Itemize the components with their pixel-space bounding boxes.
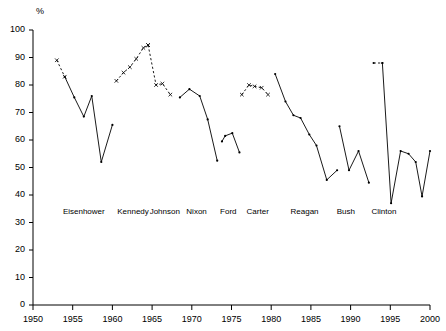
data-point-marker [238, 151, 240, 153]
axis-unit-label-group: % [36, 6, 44, 16]
data-point-marker [315, 144, 317, 146]
president-label: Reagan [291, 207, 319, 216]
chart-container: % 0102030405060708090100 195019551960196… [0, 0, 446, 331]
data-point-marker [207, 118, 209, 120]
x-axis-tick-label: 1995 [380, 314, 400, 324]
x-axis-tick-label: 2000 [420, 314, 440, 324]
data-point-marker [348, 169, 350, 171]
president-label: Clinton [371, 207, 396, 216]
data-point-marker [179, 96, 181, 98]
y-axis-tick-label: 30 [15, 217, 25, 227]
series-eisenhower [55, 58, 67, 78]
data-point-marker [407, 153, 409, 155]
data-point-marker [284, 100, 286, 102]
series-line [116, 45, 148, 81]
x-axis-tick-label: 1975 [221, 314, 241, 324]
data-point-marker [199, 95, 201, 97]
series-line [148, 45, 170, 94]
president-label: Johnson [150, 207, 180, 216]
data-point-marker [240, 93, 244, 97]
data-point-marker [128, 65, 132, 69]
data-series-group [55, 43, 431, 204]
y-axis-tick-label: 90 [15, 52, 25, 62]
data-point-marker [111, 124, 113, 126]
series-johnson [146, 43, 172, 96]
data-point-marker [55, 58, 59, 62]
data-point-marker [154, 83, 158, 87]
series-line [57, 60, 65, 77]
data-point-marker [415, 161, 417, 163]
y-axis-unit-label: % [36, 6, 44, 16]
data-point-marker [357, 150, 359, 152]
series-clinton [381, 62, 431, 204]
x-axis-tick-label: 1980 [261, 314, 281, 324]
data-point-marker [400, 150, 402, 152]
president-label: Bush [337, 207, 355, 216]
data-point-marker [326, 179, 328, 181]
data-point-marker [308, 133, 310, 135]
data-point-marker [100, 161, 102, 163]
y-axis: 0102030405060708090100 [10, 24, 33, 309]
data-point-marker [122, 71, 126, 75]
x-axis-tick-label: 1950 [23, 314, 43, 324]
data-point-marker [134, 57, 138, 61]
y-axis-tick-label: 0 [20, 299, 25, 309]
y-axis-tick-label: 50 [15, 162, 25, 172]
y-axis-tick-label: 40 [15, 189, 25, 199]
data-point-marker [83, 116, 85, 118]
data-point-marker [336, 169, 338, 171]
data-point-marker [91, 95, 93, 97]
x-axis-tick-label: 1990 [341, 314, 361, 324]
data-point-marker [224, 135, 226, 137]
president-label: Eisenhower [63, 207, 105, 216]
data-point-marker [221, 140, 223, 142]
data-point-marker [142, 46, 146, 50]
data-point-marker [338, 125, 340, 127]
series-nixon [179, 88, 219, 162]
data-point-marker [73, 96, 75, 98]
x-axis-tick-label: 1960 [102, 314, 122, 324]
y-axis-tick-label: 10 [15, 272, 25, 282]
data-point-marker [274, 73, 276, 75]
president-label: Ford [220, 207, 236, 216]
y-axis-tick-label: 100 [10, 24, 25, 34]
series-line [180, 89, 217, 161]
series-ford [221, 132, 241, 153]
x-axis-tick-label: 1985 [301, 314, 321, 324]
y-axis-tick-label: 80 [15, 79, 25, 89]
series-eisenhower [64, 76, 114, 163]
president-label: Nixon [186, 207, 206, 216]
data-point-marker [115, 79, 119, 83]
x-axis-tick-label: 1955 [63, 314, 83, 324]
data-point-marker [64, 76, 66, 78]
president-label: Carter [247, 207, 270, 216]
x-axis-tick-label: 1965 [142, 314, 162, 324]
x-axis-tick-label: 1970 [182, 314, 202, 324]
y-axis-tick-label: 60 [15, 134, 25, 144]
data-point-marker [373, 62, 375, 64]
data-point-marker [299, 117, 301, 119]
data-point-marker [390, 202, 392, 204]
series-kennedy [115, 43, 150, 82]
data-point-marker [292, 114, 294, 116]
series-bush [338, 125, 370, 184]
data-point-marker [421, 195, 423, 197]
data-point-marker [169, 93, 173, 97]
data-point-marker [188, 88, 190, 90]
data-point-marker [429, 150, 431, 152]
y-axis-tick-label: 20 [15, 244, 25, 254]
series-line [382, 63, 430, 203]
data-point-marker [216, 160, 218, 162]
series-line [339, 126, 368, 182]
series-line [65, 77, 113, 162]
data-point-marker [266, 93, 270, 97]
series-carter [240, 83, 270, 96]
series-line [275, 74, 337, 180]
data-point-marker [368, 182, 370, 184]
series-reagan [274, 73, 338, 181]
data-point-marker [231, 132, 233, 134]
data-point-marker [381, 62, 383, 64]
y-axis-tick-label: 70 [15, 107, 25, 117]
x-axis: 1950195519601965197019751980198519901995… [23, 305, 440, 324]
presidential-approval-line-chart: % 0102030405060708090100 195019551960196… [0, 0, 446, 331]
